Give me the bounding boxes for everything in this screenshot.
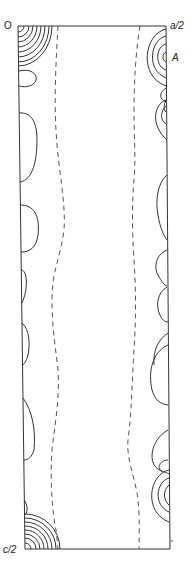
zero-contour-left bbox=[51, 26, 64, 549]
x-axis-end-label: a/2 bbox=[170, 21, 184, 31]
origin-peak-contours bbox=[18, 26, 52, 66]
peak-A-contours bbox=[147, 29, 166, 102]
origin-label: O bbox=[4, 21, 12, 31]
cell-boundary bbox=[18, 26, 170, 549]
y-axis-end-label: c/2 bbox=[3, 545, 16, 555]
contour-map bbox=[0, 0, 192, 568]
bottom-right-peak-contours bbox=[152, 430, 169, 522]
right-edge-contours bbox=[151, 100, 168, 405]
bottom-left-peak-contours bbox=[25, 514, 60, 549]
marker-dot bbox=[171, 540, 173, 542]
peak-label: A bbox=[172, 53, 179, 63]
zero-contour-right bbox=[128, 26, 140, 549]
